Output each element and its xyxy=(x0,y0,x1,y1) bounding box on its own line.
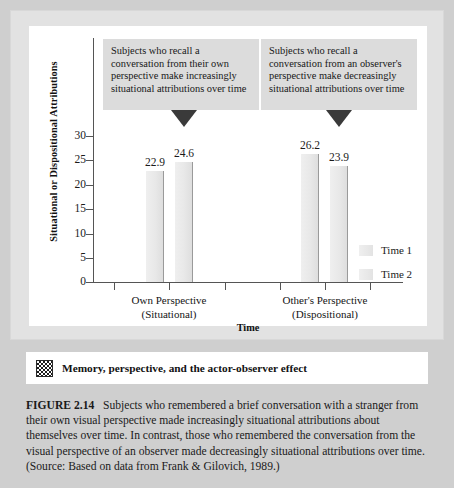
x-tick-mid xyxy=(225,283,226,290)
y-tick-label-20: 20 xyxy=(64,179,86,191)
x-category-other-line1: Other's Perspective xyxy=(255,294,395,308)
bar-time2-other-perspective xyxy=(330,166,348,282)
x-category-own-perspective: Own Perspective (Situational) xyxy=(99,294,239,321)
halftone-thumbnail-icon xyxy=(36,360,53,377)
bar-time2-own-perspective xyxy=(175,162,193,282)
legend-label-time-1: Time 1 xyxy=(381,244,412,256)
callout-own-perspective: Subjects who recall a conversation from … xyxy=(103,39,259,110)
y-axis-line xyxy=(93,38,94,283)
figure-page: Situational or Dispositional Attribution… xyxy=(0,0,454,488)
chart-legend: Time 1 Time 2 xyxy=(359,244,412,292)
legend-swatch-time-2 xyxy=(359,269,373,280)
y-tick-label-0-wrap: 0 xyxy=(57,276,86,288)
y-tick-15 xyxy=(86,209,93,210)
y-tick-label-10: 10 xyxy=(64,228,86,240)
callout-other-perspective: Subjects who recall a conversation from … xyxy=(261,39,417,110)
y-tick-label-5-wrap: 5 xyxy=(57,252,86,264)
bar-value-23-9: 23.9 xyxy=(319,152,359,164)
callout-arrow-other-perspective xyxy=(326,110,352,127)
bar-value-26-2: 26.2 xyxy=(290,140,330,152)
legend-item-time-2: Time 2 xyxy=(359,268,412,280)
y-tick-25 xyxy=(86,160,93,161)
x-category-other-perspective: Other's Perspective (Dispositional) xyxy=(255,294,395,321)
legend-label-time-2: Time 2 xyxy=(381,268,412,280)
callout-arrow-own-perspective xyxy=(171,110,197,127)
bar-chart: Situational or Dispositional Attribution… xyxy=(29,26,427,326)
y-tick-label-0: 0 xyxy=(64,276,86,288)
y-tick-0 xyxy=(86,282,93,283)
y-tick-label-25-wrap: 25 xyxy=(57,154,86,166)
figure-banner: Memory, perspective, and the actor-obser… xyxy=(26,352,428,384)
x-tick-group-1 xyxy=(169,283,170,290)
figure-caption-spacer xyxy=(94,399,103,412)
y-tick-label-30-wrap: 30 xyxy=(57,130,86,142)
y-tick-label-30: 30 xyxy=(64,130,86,142)
figure-frame: Situational or Dispositional Attribution… xyxy=(10,10,444,340)
figure-caption-number: FIGURE 2.14 xyxy=(26,399,94,412)
y-tick-20 xyxy=(86,185,93,186)
y-tick-label-15: 15 xyxy=(64,203,86,215)
legend-swatch-time-1 xyxy=(359,245,373,256)
legend-item-time-1: Time 1 xyxy=(359,244,412,256)
x-category-own-line1: Own Perspective xyxy=(99,294,239,308)
chart-panel: Situational or Dispositional Attribution… xyxy=(29,26,427,326)
y-tick-30 xyxy=(86,136,93,137)
y-tick-label-10-wrap: 10 xyxy=(57,228,86,240)
y-tick-label-20-wrap: 20 xyxy=(57,179,86,191)
x-category-own-line2: (Situational) xyxy=(99,308,239,322)
bar-value-24-6: 24.6 xyxy=(164,148,204,160)
y-tick-label-25: 25 xyxy=(64,154,86,166)
y-tick-label-5: 5 xyxy=(64,252,86,264)
x-axis-line xyxy=(93,282,403,283)
x-category-other-line2: (Dispositional) xyxy=(255,308,395,322)
figure-banner-label: Memory, perspective, and the actor-obser… xyxy=(62,362,307,374)
y-tick-5 xyxy=(86,258,93,259)
x-axis-title: Time xyxy=(93,322,403,333)
figure-caption: FIGURE 2.14 Subjects who remembered a br… xyxy=(26,398,432,474)
x-tick-left-1 xyxy=(114,283,115,290)
x-tick-group-2 xyxy=(325,283,326,290)
bar-time1-own-perspective xyxy=(146,171,164,283)
y-tick-10 xyxy=(86,234,93,235)
y-axis-title: Situational or Dispositional Attribution… xyxy=(48,52,59,252)
bar-time1-other-perspective xyxy=(301,154,319,282)
y-tick-label-15-wrap: 15 xyxy=(57,203,86,215)
x-tick-left-2 xyxy=(280,283,281,290)
